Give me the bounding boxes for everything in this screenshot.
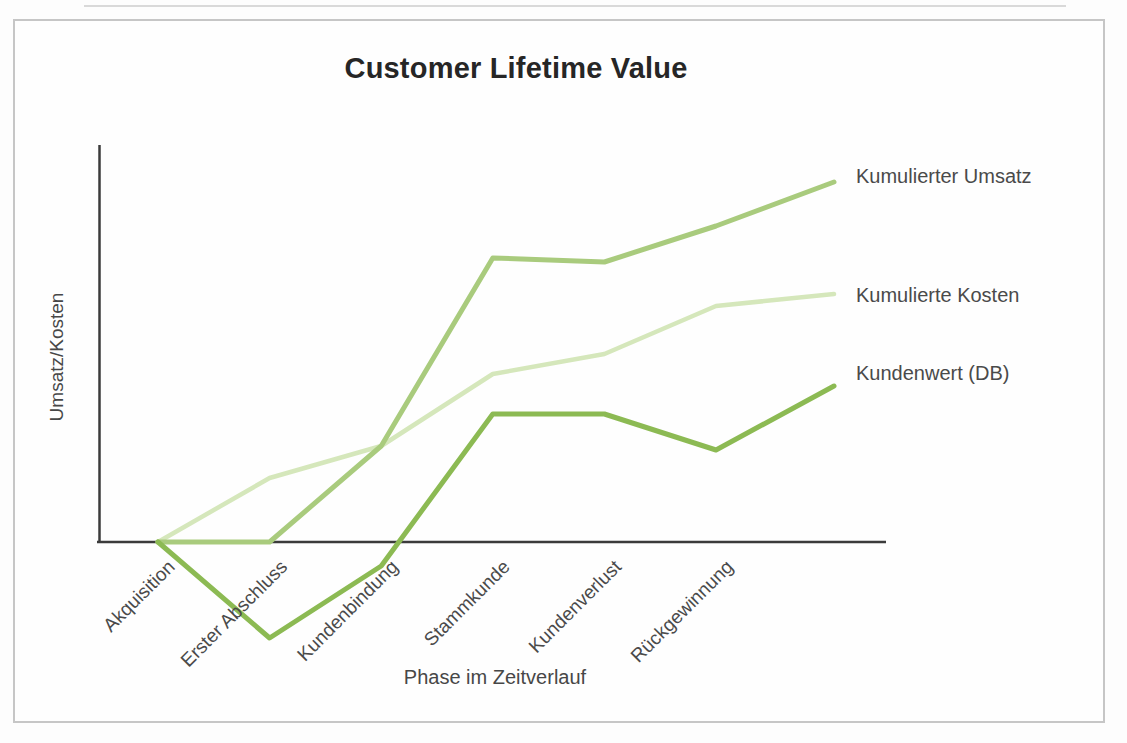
series-line-kumulierter-umsatz (158, 182, 834, 542)
legend-kumulierter-umsatz: Kumulierter Umsatz (856, 164, 1032, 188)
series-line-kumulierte-kosten (158, 294, 834, 542)
legend-kumulierte-kosten: Kumulierte Kosten (856, 283, 1019, 307)
legend-kundenwert-db: Kundenwert (DB) (856, 361, 1009, 385)
figure-page: Customer Lifetime Value Umsatz/Kosten Ak… (0, 0, 1127, 743)
x-axis-label: Phase im Zeitverlauf (404, 666, 586, 689)
